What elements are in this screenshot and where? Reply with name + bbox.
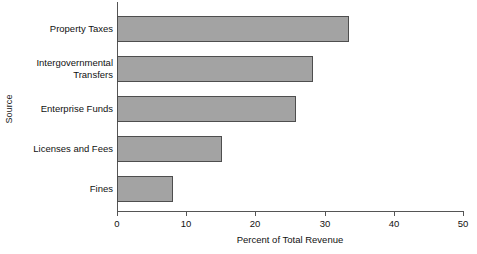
x-axis-tick-20	[255, 211, 256, 216]
category-label-property-taxes: Property Taxes	[0, 23, 113, 35]
x-axis-title: Percent of Total Revenue	[117, 234, 463, 245]
bar-licenses-and-fees	[117, 136, 222, 162]
category-label-enterprise-funds: Enterprise Funds	[0, 103, 113, 115]
x-axis-tick-label-50: 50	[458, 218, 469, 229]
x-axis-line	[117, 211, 464, 212]
bar-enterprise-funds	[117, 96, 296, 122]
x-axis-tick-label-20: 20	[250, 218, 261, 229]
bar-intergovernmental-transfers	[117, 56, 313, 82]
x-axis-tick-label-10: 10	[181, 218, 192, 229]
bar-chart: Source Property Taxes Intergovernmental …	[0, 0, 477, 254]
category-label-fines: Fines	[0, 183, 113, 195]
y-axis-tick-labels: Property Taxes Intergovernmental Transfe…	[0, 0, 113, 212]
x-axis-tick-label-0: 0	[114, 218, 119, 229]
x-axis-tick-10	[186, 211, 187, 216]
x-axis-tick-40	[394, 211, 395, 216]
x-axis-tick-label-30: 30	[320, 218, 331, 229]
bar-fines	[117, 176, 173, 202]
category-label-licenses-and-fees: Licenses and Fees	[0, 143, 113, 155]
category-label-intergovernmental-transfers: Intergovernmental Transfers	[0, 57, 113, 80]
x-axis-tick-50	[463, 211, 464, 216]
plot-area: 0 10 20 30 40 50	[117, 2, 463, 212]
x-axis-tick-label-40: 40	[389, 218, 400, 229]
bar-property-taxes	[117, 16, 349, 42]
x-axis-tick-30	[325, 211, 326, 216]
x-axis-tick-0	[117, 211, 118, 216]
